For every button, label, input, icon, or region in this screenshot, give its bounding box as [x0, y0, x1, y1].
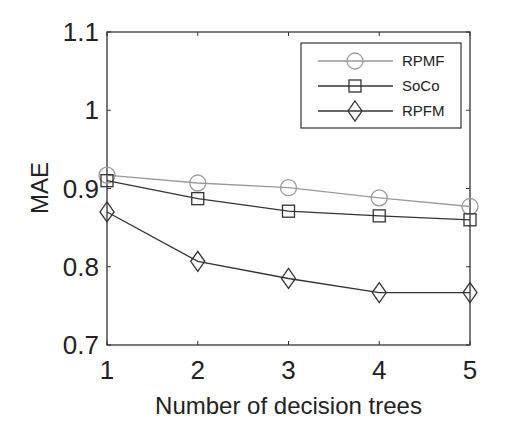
y-axis-label: MAE: [26, 162, 53, 214]
x-tick-label: 5: [463, 355, 477, 385]
x-tick-label: 4: [372, 355, 386, 385]
y-tick-label: 0.8: [63, 252, 99, 282]
series-line-rpfm: [107, 212, 470, 293]
x-tick-label: 1: [100, 355, 114, 385]
mae-line-chart: 0.70.80.911.112345Number of decision tre…: [0, 0, 508, 437]
y-tick-label: 1.1: [63, 17, 99, 47]
y-tick-label: 0.7: [63, 330, 99, 360]
y-tick-label: 1: [85, 95, 99, 125]
y-tick-label: 0.9: [63, 174, 99, 204]
x-tick-label: 2: [191, 355, 205, 385]
x-tick-label: 3: [281, 355, 295, 385]
legend-label: RPFM: [402, 102, 445, 119]
legend-label: RPMF: [402, 52, 445, 69]
legend-label: SoCo: [402, 77, 440, 94]
x-axis-label: Number of decision trees: [155, 392, 422, 419]
series-line-soco: [107, 181, 470, 220]
